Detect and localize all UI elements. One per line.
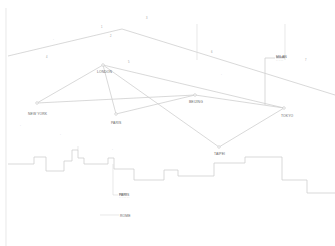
city-label-new-york: NEW YORK — [28, 112, 48, 116]
city-label-tokyo: TOKYO — [281, 114, 294, 118]
marker-label: · — [53, 39, 54, 42]
marker-label: 4 — [46, 55, 48, 59]
route-ny-london-tokyo — [37, 65, 284, 108]
top-route-line — [8, 29, 335, 95]
city-node-new-york[interactable] — [36, 102, 39, 105]
marker-label: · — [20, 125, 21, 128]
city-node-london[interactable] — [102, 64, 105, 67]
city-label-london: LONDON — [97, 70, 113, 74]
route-london-taipei-tokyo — [103, 65, 284, 147]
route-ny-beijing — [37, 95, 195, 103]
callout-label-milan: MILAN — [276, 55, 287, 59]
marker-label: · — [221, 74, 222, 77]
diagram-canvas: LONDON NEW YORK PARIS BEIJING TOKYO TAIP… — [0, 0, 335, 246]
city-label-paris: PARIS — [111, 121, 122, 125]
callout-label-paris: PARIS — [119, 193, 130, 197]
callout-sub-paris: · · · · · · · — [119, 197, 130, 200]
city-node-tokyo[interactable] — [283, 107, 286, 110]
marker-label: 3 — [146, 16, 148, 20]
marker-label: 2 — [110, 34, 112, 38]
marker-label: · — [60, 134, 61, 137]
city-node-paris[interactable] — [115, 113, 118, 116]
callout-sub-milan: · · · · · — [276, 60, 283, 63]
skyline-step-line — [8, 150, 335, 193]
city-label-beijing: BEIJING — [189, 100, 203, 104]
city-label-taipei: TAIPEI — [214, 152, 225, 156]
milan-pointer — [265, 58, 275, 105]
city-node-taipei[interactable] — [218, 146, 221, 149]
marker-label: 6 — [211, 50, 213, 54]
city-node-beijing[interactable] — [194, 94, 197, 97]
marker-label: · — [112, 149, 113, 152]
marker-label: 5 — [128, 60, 130, 64]
marker-label: 7 — [305, 58, 307, 62]
callout-label-rome: ROME — [120, 214, 131, 218]
marker-label: 1 — [101, 25, 103, 29]
